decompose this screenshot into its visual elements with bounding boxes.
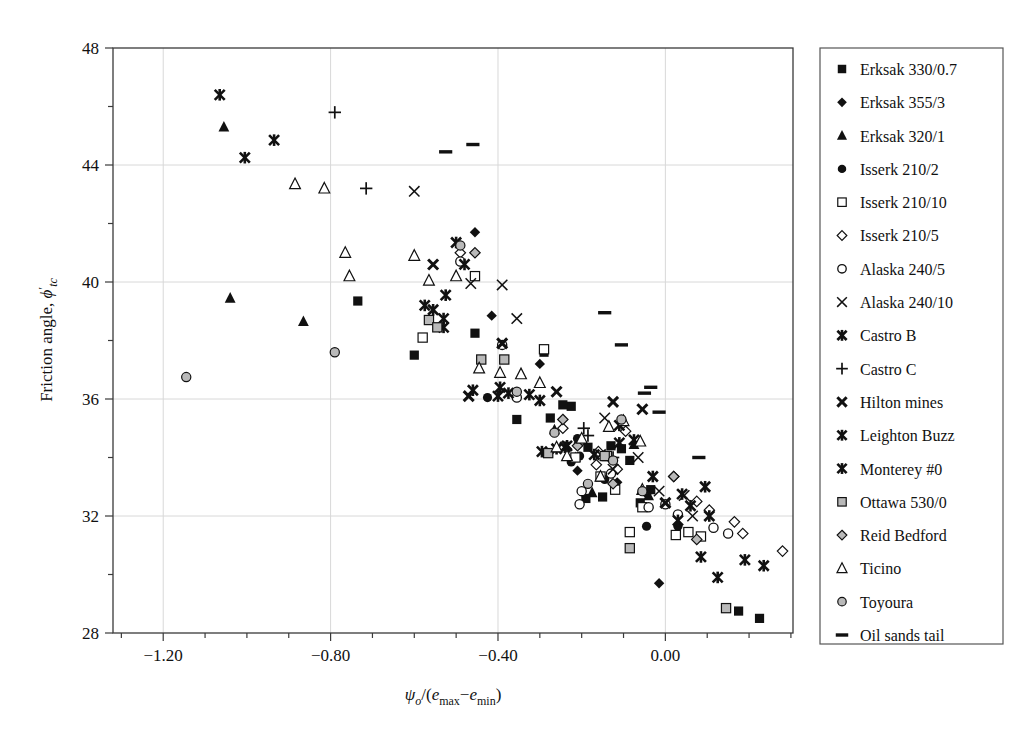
data-point (470, 227, 480, 237)
data-point (603, 421, 614, 432)
x-axis-tick-label: −0.80 (311, 646, 350, 665)
data-point (516, 368, 527, 379)
data-point (512, 387, 521, 396)
data-point (487, 310, 497, 320)
data-point (544, 449, 553, 458)
data-point (340, 247, 351, 258)
data-point (583, 479, 592, 488)
data-point (669, 471, 679, 481)
data-point (319, 182, 330, 193)
x-axis-tick-label: −0.40 (478, 646, 517, 665)
data-point (483, 393, 492, 402)
data-point (740, 554, 750, 566)
data-point (451, 270, 462, 281)
data-point (428, 259, 438, 269)
data-point (654, 486, 664, 496)
data-point (539, 345, 548, 354)
legend-item-label: Erksak 320/1 (860, 128, 945, 145)
legend-item-label: Ticino (860, 560, 901, 577)
data-point (330, 348, 339, 357)
data-point (755, 614, 764, 623)
series-isserk-210-5 (455, 248, 788, 557)
data-point (550, 428, 559, 437)
data-point (353, 296, 362, 305)
series-castro-b (215, 89, 769, 583)
legend-marker-filled-square-icon (838, 65, 846, 73)
data-point (424, 275, 435, 286)
data-point (535, 359, 545, 369)
legend-item-label: Toyoura (860, 594, 913, 612)
legend-marker-grey-circle-icon (838, 597, 846, 605)
data-point (512, 415, 521, 424)
legend-marker-open-circle-icon (838, 265, 846, 273)
data-point (500, 355, 509, 364)
data-point (182, 372, 191, 381)
data-point (572, 465, 582, 475)
y-axis-tick-label: 44 (82, 156, 100, 175)
gridlines (113, 48, 793, 633)
data-point (633, 452, 643, 462)
data-point (240, 152, 250, 164)
data-point (575, 500, 584, 509)
data-point (535, 395, 545, 407)
series-alaska-240-10 (409, 186, 698, 521)
data-point (642, 522, 651, 531)
legend-marker-open-square-icon (838, 198, 846, 206)
data-point (497, 280, 507, 290)
data-point (638, 487, 647, 496)
data-point (709, 523, 718, 532)
data-point (598, 492, 607, 501)
data-point (290, 178, 301, 189)
x-axis-tick-label: 0.00 (650, 646, 680, 665)
legend-item-label: Castro B (860, 327, 916, 344)
data-point (433, 323, 442, 332)
data-point (409, 250, 420, 261)
data-point (700, 481, 710, 493)
data-point (648, 471, 658, 483)
data-point (696, 551, 706, 563)
data-point (269, 134, 279, 146)
y-axis-title: Friction angle, ϕ′tc (35, 277, 60, 401)
plot-area-border (113, 48, 793, 633)
y-axis-tick-label: 40 (82, 273, 99, 292)
data-point (759, 560, 769, 572)
data-point (534, 377, 545, 388)
legend-item-label: Castro C (860, 361, 916, 378)
series-hilton-mines (428, 259, 670, 507)
data-points (182, 89, 788, 623)
axis-titles: Friction angle, ϕ′tcψo/(emax−emin) (35, 277, 501, 708)
legend-item-label: Ottawa 530/0 (860, 494, 947, 511)
legend-item-label: Leighton Buzz (860, 427, 955, 445)
data-point (734, 606, 743, 615)
series-ottawa-530-0 (424, 315, 730, 612)
data-point (724, 529, 733, 538)
data-point (552, 387, 562, 397)
series-monterey-0 (441, 289, 572, 451)
data-point (360, 182, 372, 194)
data-point (721, 604, 730, 613)
legend-item-label: Alaska 240/5 (860, 261, 945, 278)
data-point (673, 515, 683, 527)
y-axis-tick-label: 28 (82, 624, 99, 643)
axis-tick-labels: 283236404448−1.20−0.80−0.400.00 (82, 39, 680, 665)
legend-item-label: Isserk 210/2 (860, 161, 939, 178)
data-point (671, 530, 680, 539)
data-point (495, 382, 505, 394)
data-point (512, 313, 522, 323)
legend-marker-grey-square-icon (838, 498, 846, 506)
data-point (654, 578, 664, 588)
legend-item-label: Alaska 240/10 (860, 294, 953, 311)
data-point (477, 355, 486, 364)
legend-item-label: Erksak 330/0.7 (860, 61, 957, 78)
data-point (344, 270, 355, 281)
legend: Erksak 330/0.7Erksak 355/3Erksak 320/1Is… (820, 48, 1003, 644)
legend-item-label: Hilton mines (860, 394, 943, 411)
legend-marker-filled-circle-icon (838, 165, 846, 173)
legend-item-label: Erksak 355/3 (860, 94, 945, 111)
data-point (625, 544, 634, 553)
data-point (524, 389, 534, 401)
chart-page: 283236404448−1.20−0.80−0.400.00Friction … (0, 0, 1013, 738)
series-ticino (290, 178, 648, 494)
data-point (456, 241, 465, 250)
data-point (685, 500, 695, 512)
